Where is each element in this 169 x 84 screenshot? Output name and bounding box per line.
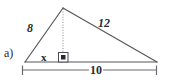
problem-part-label: a) <box>4 47 13 59</box>
right-angle-marker-icon <box>59 53 69 63</box>
diagram-canvas: a) 8 12 x 10 <box>0 0 169 84</box>
left-side-length-label: 8 <box>27 22 33 34</box>
right-side-length-label: 12 <box>98 17 110 29</box>
base-segment-x-label: x <box>41 52 47 63</box>
triangle-right-side <box>63 8 157 62</box>
geometry-figure <box>0 0 169 84</box>
base-length-label: 10 <box>89 64 103 76</box>
